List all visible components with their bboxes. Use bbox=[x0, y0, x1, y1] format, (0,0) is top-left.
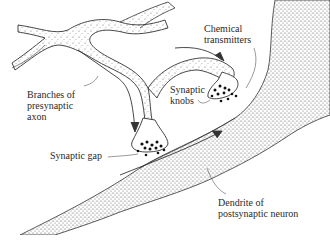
label-branches-of-presynaptic-axon: Branches of presynaptic axon bbox=[27, 89, 75, 122]
label-synaptic-knobs: Synaptic knobs bbox=[170, 84, 205, 106]
label-chemical-transmitters: Chemical transmitters bbox=[204, 23, 251, 45]
label-dendrite-of-postsynaptic-neuron: Dendrite of postsynaptic neuron bbox=[218, 197, 298, 219]
label-synaptic-gap: Synaptic gap bbox=[50, 150, 102, 161]
synaptic-knob-upper bbox=[208, 72, 238, 102]
